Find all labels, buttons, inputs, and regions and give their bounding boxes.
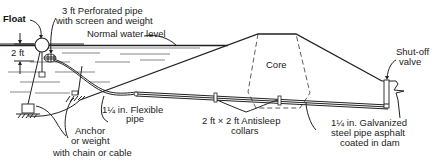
perforated-pipe-label-2: with screen and weight	[55, 15, 153, 26]
pond-drain-diagram: Core	[0, 0, 436, 162]
anchor-label-2: or weight	[71, 135, 110, 146]
anchor-chain-1	[28, 52, 40, 104]
diagram-canvas: Core	[0, 0, 436, 162]
float-icon	[35, 38, 49, 52]
float-weight-icon	[39, 72, 45, 77]
depth-label: 2 ft	[11, 47, 25, 58]
anchor-label-3: with chain or cable	[52, 147, 132, 158]
core-label: Core	[266, 59, 287, 70]
water-level-label: Normal water level	[87, 28, 166, 39]
shutoff-valve-label-2: valve	[399, 56, 421, 67]
pipe-joint	[134, 92, 138, 96]
collar-1	[214, 93, 217, 102]
flex-pipe-label-2: pipe	[126, 113, 144, 124]
shut-off-valve	[384, 80, 389, 108]
collars-label-2: collars	[231, 125, 259, 136]
collar-2	[278, 96, 281, 105]
perforated-pipe-screen	[44, 54, 56, 62]
pipe-system	[48, 58, 388, 109]
steel-pipe-label-3: coated in dam	[340, 137, 400, 148]
water-surface	[0, 44, 228, 93]
float-label: Float	[3, 13, 27, 24]
